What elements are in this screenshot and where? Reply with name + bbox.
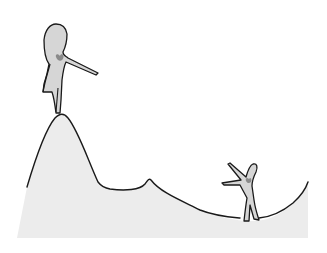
small-figure xyxy=(222,163,259,221)
illustration: Hand-drawn sketch: a large figure standi… xyxy=(0,0,327,253)
large-figure xyxy=(43,24,98,113)
ground-fill xyxy=(17,114,308,238)
